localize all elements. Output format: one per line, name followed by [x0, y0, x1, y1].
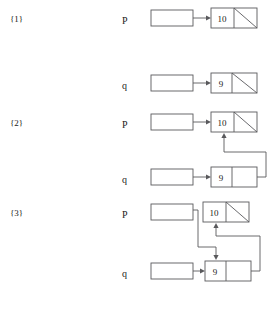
step-2-label: {2}: [10, 118, 23, 128]
s3-q-pointer-label: q: [122, 268, 127, 279]
diagram-canvas: {1}P10{2}q9P10q9{3}P10q9: [0, 0, 271, 309]
s1-p-arrowhead: [206, 15, 211, 20]
s2-p-node-value: 10: [218, 118, 228, 128]
s2-q-top-row: q9: [122, 73, 257, 93]
s2-p-arrowhead: [206, 119, 211, 124]
s3-q-node-value: 9: [213, 267, 218, 277]
s3-p-node-value: 10: [210, 208, 220, 218]
step-2-group: {2}q9P10q9: [10, 73, 266, 187]
step-1-label: {1}: [10, 14, 23, 24]
s2-q-top-pointer-label: q: [122, 80, 127, 91]
linked-list-diagram: {1}P10{2}q9P10q9{3}P10q9: [0, 0, 271, 309]
s3-q-arrowhead: [200, 268, 205, 273]
s3-q-row: q9: [122, 261, 251, 281]
s2-q-bottom-pointer-label: q: [122, 174, 127, 185]
s2-p-variable-box[interactable]: [151, 114, 193, 130]
step-1-group: {1}P10: [10, 8, 257, 28]
s3-next-link-arrowhead: [213, 223, 218, 228]
s1-p-variable-box[interactable]: [151, 10, 193, 26]
s2-q-bottom-row: q9: [122, 167, 257, 187]
s2-q-top-node-value: 9: [219, 79, 224, 89]
s2-q-bottom-node-value: 9: [219, 173, 224, 183]
s2-p-pointer-label: P: [122, 119, 128, 130]
s3-q-variable-box[interactable]: [151, 263, 193, 279]
s2-q-bottom-variable-box[interactable]: [151, 169, 193, 185]
s2-q-top-variable-box[interactable]: [151, 75, 193, 91]
s3-p-variable-box[interactable]: [151, 204, 193, 220]
s1-p-pointer-label: P: [122, 15, 128, 26]
s1-p-row: P10: [122, 8, 257, 28]
s2-p-row: P10: [122, 112, 257, 132]
s3-p-pointer-label: P: [122, 209, 128, 220]
step-3-label: {3}: [10, 208, 23, 218]
s3-p-link-arrowhead: [213, 255, 218, 260]
s1-p-node-value: 10: [218, 14, 228, 24]
s3-p-row: P10: [122, 202, 249, 222]
s2-q-top-arrowhead: [206, 80, 211, 85]
s2-q-bottom-arrowhead: [206, 174, 211, 179]
s2-next-link-arrowhead: [221, 133, 226, 138]
step-3-group: {3}P10q9: [10, 202, 260, 281]
